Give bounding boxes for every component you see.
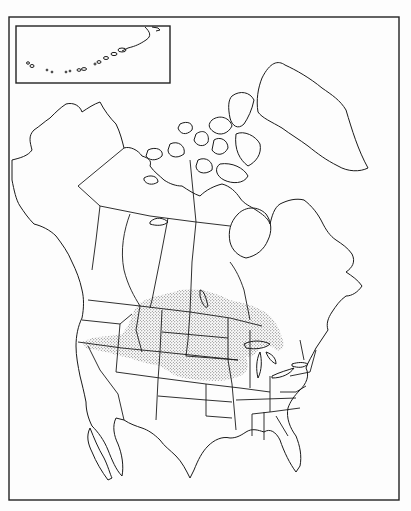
alaska-canada-border	[78, 148, 124, 206]
great-bear-lake	[150, 218, 168, 225]
map-frame	[9, 17, 399, 500]
hudson-bay	[229, 208, 271, 258]
north-america-map	[0, 0, 411, 511]
aleutian-inset	[16, 26, 170, 83]
greenland	[257, 63, 368, 171]
map-figure: North America outline map with shaded di…	[0, 0, 411, 511]
arctic-archipelago	[144, 93, 260, 185]
